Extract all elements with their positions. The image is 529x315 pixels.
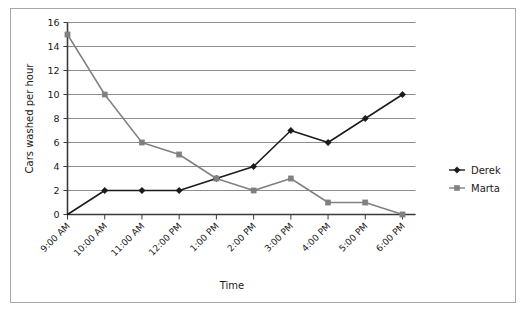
data-point-marta xyxy=(363,200,368,205)
x-axis-tick-label: 9:00 AM xyxy=(39,221,72,254)
data-point-marta xyxy=(288,176,293,181)
legend-label-marta: Marta xyxy=(471,183,500,194)
data-point-marta xyxy=(177,152,182,157)
data-point-marta xyxy=(251,188,256,193)
data-point-marta xyxy=(214,176,219,181)
y-axis-tick-labels-group: 0246810121416 xyxy=(47,17,59,220)
y-axis-tick-label: 0 xyxy=(53,209,59,220)
data-point-derek xyxy=(139,187,145,193)
data-point-marta xyxy=(65,32,70,37)
x-axis-tick-label: 1:00 PM xyxy=(188,221,221,254)
data-point-derek xyxy=(176,187,182,193)
y-axis-tick-label: 12 xyxy=(47,65,59,76)
series-lines-group xyxy=(68,35,403,215)
legend-label-derek: Derek xyxy=(471,165,501,176)
y-axis-tick-label: 4 xyxy=(53,161,59,172)
series-markers-group xyxy=(65,32,406,217)
x-axis-tick-label: 11:00 AM xyxy=(109,221,146,258)
x-axis-tick-label: 2:00 PM xyxy=(225,221,258,254)
y-axis-tick-label: 2 xyxy=(53,185,59,196)
y-axis-tick-label: 6 xyxy=(53,137,59,148)
chart-figure: 0246810121416 9:00 AM10:00 AM11:00 AM12:… xyxy=(0,0,529,315)
data-point-marta xyxy=(139,140,144,145)
legend-marker-marta xyxy=(454,185,459,190)
y-axis-tick-label: 10 xyxy=(47,89,59,100)
x-axis-tick-label: 3:00 PM xyxy=(263,221,296,254)
y-axis-tick-label: 14 xyxy=(47,41,59,52)
line-chart-plot: 0246810121416 9:00 AM10:00 AM11:00 AM12:… xyxy=(0,0,529,315)
x-axis-tick-label: 12:00 PM xyxy=(147,221,184,258)
x-axis-tick-label: 4:00 PM xyxy=(300,221,333,254)
data-point-marta xyxy=(400,212,405,217)
series-line-marta xyxy=(68,35,403,215)
legend: DerekMarta xyxy=(449,165,501,194)
y-axis-tick-label: 16 xyxy=(47,17,59,28)
x-axis-ticks-group xyxy=(68,215,403,220)
x-axis-tick-label: 10:00 AM xyxy=(72,221,109,258)
legend-marker-derek xyxy=(454,167,460,173)
x-axis-title: Time xyxy=(219,280,244,291)
y-axis-tick-label: 8 xyxy=(53,113,59,124)
y-axis-title: Cars washed per hour xyxy=(24,63,35,174)
x-axis-tick-label: 6:00 PM xyxy=(374,221,407,254)
x-axis-tick-label: 5:00 PM xyxy=(337,221,370,254)
data-point-marta xyxy=(102,92,107,97)
x-axis-tick-labels-group: 9:00 AM10:00 AM11:00 AM12:00 PM1:00 PM2:… xyxy=(39,221,407,258)
data-point-marta xyxy=(325,200,330,205)
